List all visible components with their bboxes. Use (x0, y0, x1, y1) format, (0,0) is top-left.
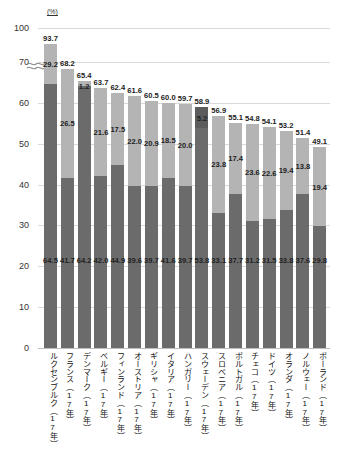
category-label: スウェーデン（17年） (195, 352, 208, 440)
bar-segment-lower (263, 219, 276, 348)
bar-column[interactable]: 63.721.642.0 (94, 14, 107, 348)
y-tick-label-0: 0 (24, 343, 29, 353)
y-tick-label-60: 60 (19, 98, 29, 108)
bar-column[interactable]: 61.622.039.6 (128, 14, 141, 348)
category-label: ギリシャ（17年） (145, 352, 158, 424)
category-label: ルクセンブルク（17年） (44, 352, 57, 448)
bar-column[interactable]: 56.923.833.1 (212, 14, 225, 348)
y-tick-label-20: 20 (19, 261, 29, 271)
category-label: ドイツ（17年） (263, 352, 276, 416)
bar-column[interactable]: 55.117.437.7 (229, 14, 242, 348)
bar-total-label: 49.1 (303, 137, 337, 146)
category-label: オーストリア（17年） (128, 352, 141, 440)
bar-column[interactable]: 60.018.541.6 (162, 14, 175, 348)
bar-segment-lower (280, 210, 293, 348)
category-label: ハンガリー（17年） (179, 352, 192, 432)
category-label: フランス（17年） (61, 352, 74, 424)
y-tick-label-10: 10 (19, 302, 29, 312)
bar-segment-lower (128, 186, 141, 348)
bar-chart: (%) 010203040506070100 93.729.264.568.22… (0, 0, 337, 464)
category-label: デンマーク（17年） (78, 352, 91, 432)
bar-segment-lower (229, 194, 242, 348)
bars-group: 93.729.264.568.226.541.765.41.264.263.72… (38, 14, 330, 348)
bar-segment-lower (212, 213, 225, 348)
bar-column[interactable]: 53.219.433.8 (280, 14, 293, 348)
category-label: フィンランド（17年） (111, 352, 124, 440)
bar-column[interactable]: 65.41.264.2 (78, 14, 91, 348)
plot-area: 010203040506070100 93.729.264.568.226.54… (38, 14, 330, 348)
bar-segment-lower (145, 186, 158, 348)
bar-segment-lower (179, 186, 192, 348)
category-label: ポーランド（17年） (313, 352, 326, 432)
y-tick-label-100: 100 (14, 23, 29, 33)
bar-column[interactable]: 68.226.541.7 (61, 14, 74, 348)
category-label: スロベニア（17年） (212, 352, 225, 432)
bar-column[interactable]: 62.417.544.9 (111, 14, 124, 348)
y-tick-label-40: 40 (19, 180, 29, 190)
category-label: チェコ（17年） (246, 352, 259, 416)
category-label: ノルウェー（17年） (296, 352, 309, 432)
bar-segment-lower (313, 226, 326, 348)
bar-upper-label: 19.4 (303, 183, 337, 192)
gridline-0 (38, 348, 330, 349)
y-tick-label-50: 50 (19, 139, 29, 149)
bar-column[interactable]: 54.823.631.2 (246, 14, 259, 348)
bar-column[interactable]: 51.413.837.6 (296, 14, 309, 348)
bar-column[interactable]: 54.122.631.5 (263, 14, 276, 348)
bar-segment-lower (296, 194, 309, 348)
bar-segment-lower (78, 86, 91, 348)
category-label: ベルギー（17年） (94, 352, 107, 424)
category-label: ポルトガル（17年） (229, 352, 242, 432)
bar-column[interactable]: 58.95.253.8 (195, 14, 208, 348)
category-label: イタリア（17年） (162, 352, 175, 424)
bar-column[interactable]: 59.720.039.7 (179, 14, 192, 348)
bar-column[interactable]: 49.119.429.8 (313, 14, 326, 348)
bar-lower-label: 29.8 (303, 256, 337, 265)
y-tick-label-30: 30 (19, 220, 29, 230)
bar-column[interactable]: 60.520.939.7 (145, 14, 158, 348)
category-labels-group: ルクセンブルク（17年）フランス（17年）デンマーク（17年）ベルギー（17年）… (38, 352, 330, 464)
bar-segment-lower (246, 221, 259, 348)
category-label: オランダ（17年） (280, 352, 293, 424)
